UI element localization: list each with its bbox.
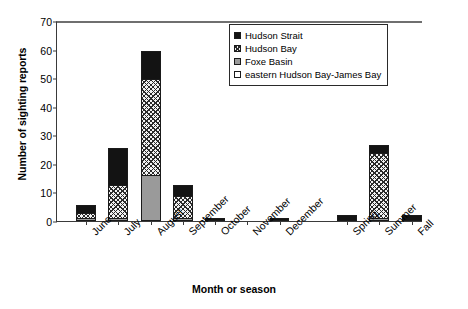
- sighting-reports-bar-chart: Number of sighting reports 0102030405060…: [0, 0, 468, 309]
- bar-segment-foxe-basin: [141, 175, 161, 221]
- bar-segment-hudson-bay: [141, 79, 161, 176]
- bar-june: [76, 204, 96, 221]
- legend-swatch-icon: [234, 58, 241, 65]
- legend-label: Hudson Bay: [245, 43, 297, 54]
- legend-label: Hudson Strait: [245, 30, 303, 41]
- bar-segment-foxe-basin: [76, 218, 96, 221]
- x-axis-tick-mark: [347, 221, 348, 225]
- bar-segment-hudson-strait: [337, 215, 357, 221]
- x-axis-title: Month or season: [0, 283, 468, 295]
- legend-item: Foxe Basin: [234, 55, 381, 68]
- x-axis-tick-mark: [379, 221, 380, 225]
- x-axis-tick-mark: [86, 221, 87, 225]
- y-axis-title: Number of sighting reports: [2, 0, 16, 18]
- legend-label: eastern Hudson Bay-James Bay: [245, 69, 381, 80]
- legend-swatch-icon: [234, 71, 241, 78]
- x-axis-tick-mark: [247, 221, 248, 225]
- y-axis-tick-mark: [53, 22, 57, 23]
- y-axis-tick-mark: [53, 222, 57, 223]
- legend-swatch-icon: [234, 45, 241, 52]
- legend-swatch-icon: [234, 32, 241, 39]
- legend-item: Hudson Strait: [234, 29, 381, 42]
- bar-july: [108, 147, 128, 221]
- y-axis-tick-mark: [53, 79, 57, 80]
- y-axis-tick-mark: [53, 193, 57, 194]
- x-axis-tick-mark: [412, 221, 413, 225]
- bar-segment-hudson-bay: [108, 185, 128, 219]
- x-axis-tick-mark: [280, 221, 281, 225]
- bar-spring: [337, 215, 357, 221]
- bar-august: [141, 50, 161, 221]
- y-axis-tick-mark: [53, 164, 57, 165]
- y-axis-tick-mark: [53, 136, 57, 137]
- bar-segment-hudson-strait: [141, 51, 161, 80]
- legend-item: eastern Hudson Bay-James Bay: [234, 68, 381, 81]
- chart-legend: Hudson StraitHudson BayFoxe Basineastern…: [229, 24, 388, 86]
- x-axis-tick-mark: [151, 221, 152, 225]
- y-axis-tick-mark: [53, 107, 57, 108]
- y-axis-tick-mark: [53, 50, 57, 51]
- y-axis-title-text: Number of sighting reports: [16, 14, 28, 214]
- x-axis-tick-mark: [118, 221, 119, 225]
- x-axis-tick-mark: [183, 221, 184, 225]
- legend-item: Hudson Bay: [234, 42, 381, 55]
- bar-segment-hudson-strait: [108, 148, 128, 185]
- legend-label: Foxe Basin: [245, 56, 293, 67]
- x-axis-tick-mark: [215, 221, 216, 225]
